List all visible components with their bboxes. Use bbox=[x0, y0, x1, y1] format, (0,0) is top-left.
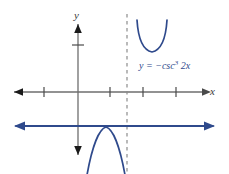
graph-canvas bbox=[0, 0, 229, 174]
trig-graph-figure: y x y = −csc3 2x bbox=[0, 0, 229, 174]
x-axis-label: x bbox=[210, 86, 215, 97]
horizontal-ray-arrow-right bbox=[204, 122, 215, 131]
curve-group bbox=[16, 20, 213, 174]
equation-label-tail: 2x bbox=[178, 60, 190, 71]
equation-label-main: y = −csc bbox=[139, 60, 175, 71]
horizontal-ray-arrow-left bbox=[14, 122, 25, 131]
equation-label: y = −csc3 2x bbox=[139, 61, 190, 71]
y-axis-label: y bbox=[74, 10, 79, 21]
curve-lower-branch bbox=[87, 127, 125, 174]
y-axis-arrow-up bbox=[74, 24, 82, 33]
curve-upper-branch bbox=[137, 20, 167, 52]
axes-group bbox=[14, 24, 211, 155]
y-axis-arrow-down bbox=[74, 146, 82, 155]
x-axis-arrow-left bbox=[14, 88, 23, 96]
